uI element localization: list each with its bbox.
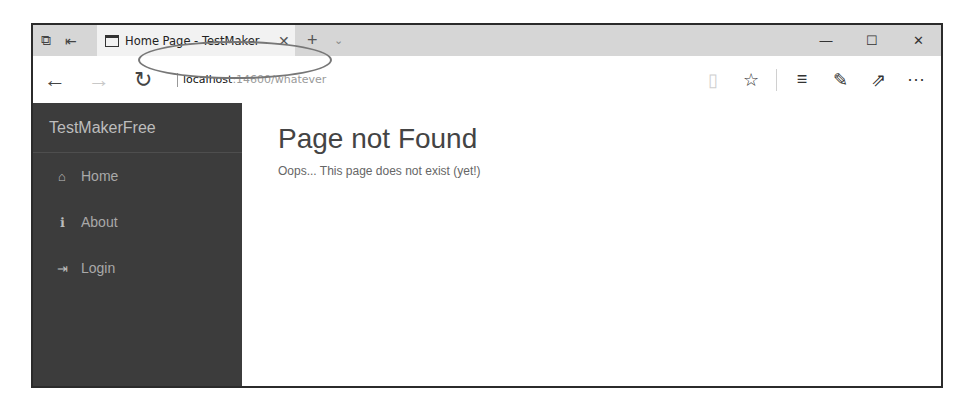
sidebar-item-label: Home	[81, 168, 118, 184]
more-icon[interactable]: ···	[897, 69, 935, 90]
address-bar[interactable]: localhost:14600/whatever	[171, 65, 361, 95]
address-caret	[177, 73, 178, 87]
info-icon: ℹ	[55, 215, 69, 230]
toolbar-right: ▯ ☆ ≡ ✎ ⇗ ···	[694, 69, 941, 91]
close-button[interactable]: ✕	[895, 33, 941, 48]
window-controls: — ☐ ✕	[803, 25, 941, 56]
tab-bar: ⧉ ⇤ Home Page - TestMaker ✕ + ⌄ — ☐ ✕	[33, 25, 941, 56]
browser-window: ⧉ ⇤ Home Page - TestMaker ✕ + ⌄ — ☐ ✕ ← …	[31, 23, 943, 388]
minimize-button[interactable]: —	[803, 33, 849, 48]
refresh-button[interactable]: ↻	[121, 67, 165, 93]
new-tab-button[interactable]: +	[307, 30, 318, 51]
favorite-star-icon[interactable]: ☆	[732, 69, 770, 91]
home-icon: ⌂	[55, 169, 69, 184]
forward-button[interactable]: →	[77, 67, 121, 93]
tab-preview-icon[interactable]: ⧉	[41, 32, 51, 49]
reading-view-icon[interactable]: ▯	[694, 69, 732, 91]
back-button[interactable]: ←	[33, 67, 77, 93]
tab-close-icon[interactable]: ✕	[278, 33, 290, 49]
set-tabs-aside-icon[interactable]: ⇤	[65, 33, 77, 49]
tab-home-page[interactable]: Home Page - TestMaker ✕	[97, 25, 295, 56]
address-host: localhost	[183, 73, 232, 86]
toolbar-divider	[776, 69, 777, 91]
tab-title: Home Page - TestMaker	[125, 34, 270, 48]
new-tab-group: + ⌄	[295, 25, 343, 56]
sidebar-item-login[interactable]: ⇥ Login	[33, 245, 242, 291]
main-content: Page not Found Oops... This page does no…	[242, 103, 941, 386]
navigation-bar: ← → ↻ localhost:14600/whatever ▯ ☆ ≡ ✎ ⇗…	[33, 56, 941, 103]
brand-link[interactable]: TestMakerFree	[33, 103, 242, 153]
page-icon	[105, 35, 119, 47]
sidebar-item-about[interactable]: ℹ About	[33, 199, 242, 245]
error-message: Oops... This page does not exist (yet!)	[278, 164, 941, 178]
page-title: Page not Found	[278, 123, 941, 155]
share-icon[interactable]: ⇗	[859, 69, 897, 91]
sidebar-item-label: Login	[81, 260, 115, 276]
address-path: :14600/whatever	[232, 73, 326, 86]
web-note-pen-icon[interactable]: ✎	[821, 69, 859, 91]
sidebar: TestMakerFree ⌂ Home ℹ About ⇥ Login	[33, 103, 242, 386]
tab-list-chevron-icon[interactable]: ⌄	[334, 34, 343, 47]
hub-icon[interactable]: ≡	[783, 69, 821, 90]
tab-tools: ⧉ ⇤	[33, 25, 97, 56]
sidebar-item-home[interactable]: ⌂ Home	[33, 153, 242, 199]
maximize-button[interactable]: ☐	[849, 33, 895, 48]
sidebar-item-label: About	[81, 214, 118, 230]
login-icon: ⇥	[55, 261, 69, 276]
